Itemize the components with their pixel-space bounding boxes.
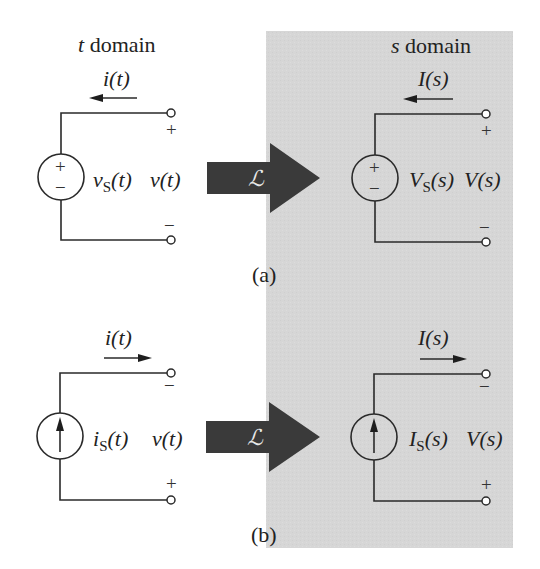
- voltage-label: V(s): [464, 167, 501, 192]
- laplace-symbol: ℒ: [247, 425, 264, 450]
- svg-text:+: +: [369, 157, 380, 178]
- voltage-source-icon: + −: [38, 154, 84, 200]
- current-label: I(s): [417, 325, 449, 350]
- voltage-label: v(t): [150, 167, 181, 192]
- top-wire: [61, 113, 167, 154]
- bottom-wire: [60, 459, 167, 500]
- terminal-top-sign: −: [479, 376, 490, 397]
- terminal-top: [167, 109, 175, 117]
- svg-text:+: +: [55, 156, 66, 177]
- circuit-a-t-domain: i(t) + − + − vS(t) v(t): [38, 66, 181, 244]
- s-domain-header: s domain: [391, 33, 471, 58]
- caption-a: (a): [252, 262, 276, 287]
- laplace-symbol: ℒ: [248, 166, 265, 191]
- current-arrow-right-icon: [104, 354, 152, 362]
- current-label: I(s): [417, 66, 449, 91]
- terminal-top-sign: +: [481, 120, 492, 141]
- voltage-label: v(t): [152, 426, 183, 451]
- source-label: IS(s): [408, 426, 448, 454]
- terminal-bottom: [167, 236, 175, 244]
- s-domain-panel: [266, 31, 513, 548]
- top-wire: [60, 373, 167, 413]
- bottom-wire: [61, 200, 167, 240]
- voltage-label: V(s): [466, 426, 503, 451]
- current-label: i(t): [103, 66, 130, 91]
- terminal-bottom-sign: −: [479, 217, 490, 238]
- circuit-b-t-domain: i(t) − + iS(t) v(t): [37, 325, 183, 504]
- source-label: iS(t): [93, 426, 128, 454]
- current-label: i(t): [105, 325, 132, 350]
- terminal-top-sign: +: [166, 119, 177, 140]
- diagram-canvas: t domain s domain i(t) + − + − vS(t) v(t…: [0, 0, 540, 569]
- svg-text:−: −: [55, 177, 66, 198]
- source-label: VS(s): [409, 167, 454, 195]
- source-label: vS(t): [93, 167, 132, 195]
- caption-b: (b): [251, 522, 277, 547]
- terminal-bottom-sign: +: [166, 473, 177, 494]
- laplace-transform-diagram: t domain s domain i(t) + − + − vS(t) v(t…: [0, 0, 540, 569]
- terminal-bottom: [482, 238, 490, 246]
- terminal-top: [482, 110, 490, 118]
- current-source-icon: [37, 413, 83, 459]
- terminal-top-sign: −: [164, 375, 175, 396]
- terminal-bottom-sign: −: [164, 215, 175, 236]
- terminal-bottom: [482, 497, 490, 505]
- terminal-bottom: [167, 496, 175, 504]
- svg-text:−: −: [369, 178, 380, 199]
- terminal-bottom-sign: +: [481, 474, 492, 495]
- current-arrow-left-icon: [89, 94, 137, 102]
- t-domain-header: t domain: [78, 32, 156, 57]
